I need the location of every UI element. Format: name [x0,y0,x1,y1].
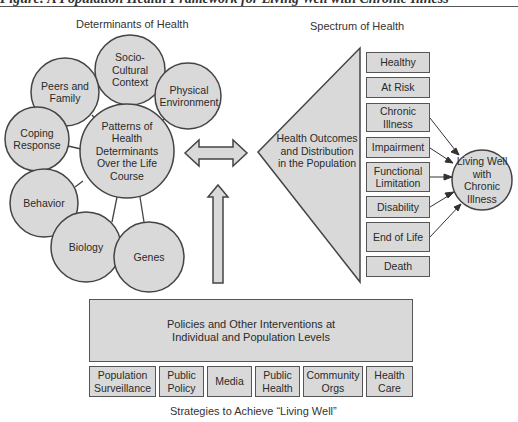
strategy-community-orgs: Community Orgs [303,366,363,397]
strategies-footer: Strategies to Achieve “Living Well” [170,405,337,417]
stage-death: Death [366,256,430,277]
strategy-health-care: Health Care [366,366,413,397]
biology-label: Biology [58,239,114,255]
triangle-label: Health Outcomes and Distribution in the … [276,118,358,184]
stage-at-risk: At Risk [366,77,430,98]
living-well-label: Living Well with Chronic Illness [455,155,509,205]
socio-cultural-label: Socio-Cultural Context [100,48,160,92]
strategy-public-policy: Public Policy [159,366,204,397]
patterns-label: Patterns of Health Determinants Over the… [88,118,166,184]
interventions-box: Policies and Other Interventions at Indi… [89,299,413,362]
up-arrow-icon [208,185,228,283]
stage-functional-limitation: Functional Limitation [366,162,430,192]
physical-environment-label: Physical Environment [156,80,222,112]
double-arrow-icon [185,140,247,166]
stage-end-of-life: End of Life [366,222,430,252]
strategy-media: Media [207,366,252,397]
behavior-label: Behavior [12,195,76,211]
peers-family-label: Peers and Family [38,76,92,108]
strategy-public-health: Public Health [255,366,300,397]
stage-healthy: Healthy [366,52,430,73]
stage-chronic-illness: Chronic Illness [366,103,430,132]
strategy-population-surveillance: Population Surveillance [89,366,156,397]
genes-label: Genes [121,249,177,265]
stage-disability: Disability [366,196,430,218]
coping-response-label: Coping Response [8,123,66,155]
stage-impairment: Impairment [366,137,430,158]
